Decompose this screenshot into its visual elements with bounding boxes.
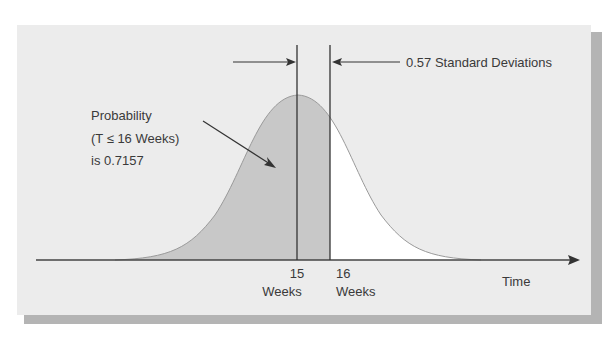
marker-15-unit: Weeks [252,284,312,299]
marker-15-value: 15 [267,266,327,281]
probability-label-line1: Probability [91,108,152,123]
probability-label-line2: (T ≤ 16 Weeks) [91,131,179,146]
std-deviation-label: 0.57 Standard Deviations [406,55,552,70]
shaded-probability-area [115,95,481,260]
marker-16-unit: Weeks [336,284,376,299]
marker-16-value: 16 [336,266,350,281]
time-axis-label: Time [502,274,530,289]
probability-label-line3: is 0.7157 [91,153,144,168]
